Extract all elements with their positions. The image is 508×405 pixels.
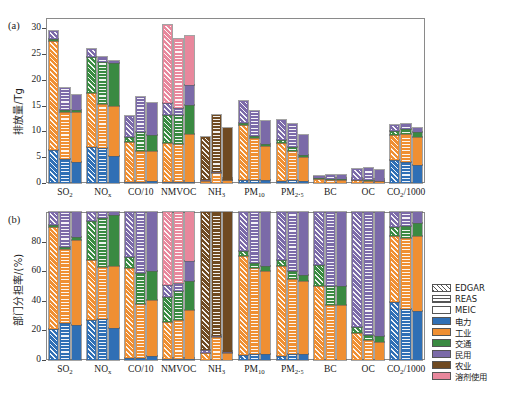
- panel-b-segment-民用: [87, 212, 96, 221]
- hatch-overlay: [251, 112, 258, 135]
- panel-b-segment-工业: [72, 240, 81, 325]
- hatch-overlay: [353, 328, 360, 331]
- legend-item-sector-0[interactable]: 电力: [432, 316, 487, 326]
- hatch-overlay: [289, 280, 296, 353]
- panel-b-segment-民用: [299, 212, 308, 275]
- panel-b-bar-reas: [60, 212, 69, 360]
- panel-a-segment-民用: [87, 49, 96, 57]
- panel-b-segment-工业: [60, 249, 69, 323]
- panel-b-y-tick-mark: [42, 301, 46, 302]
- panel-b-segment-民用: [147, 212, 156, 271]
- hatch-overlay: [50, 213, 57, 224]
- panel-a-segment-交通: [163, 115, 172, 142]
- panel-a-segment-交通: [239, 123, 248, 126]
- panel-b-group: [125, 212, 157, 360]
- panel-b-segment-农业: [212, 212, 221, 336]
- panel-b-segment-民用: [375, 212, 384, 336]
- legend-item-meic[interactable]: MEIC: [432, 305, 487, 315]
- hatch-overlay: [126, 138, 133, 141]
- panel-b-segment-交通: [98, 218, 107, 267]
- panel-b-segment-交通: [163, 297, 172, 323]
- legend-item-sector-5[interactable]: 溶剂使用: [432, 371, 487, 381]
- hatch-overlay: [391, 161, 398, 182]
- hatch-overlay: [391, 213, 398, 226]
- panel-b-segment-民用: [364, 212, 373, 335]
- panel-b-segment-农业: [201, 212, 210, 350]
- hatch-overlay: [50, 151, 57, 182]
- panel-a-segment-民用: [277, 120, 286, 141]
- panel-b-segment-工业: [413, 236, 422, 311]
- panel-b-segment-电力: [250, 354, 259, 360]
- legend-item-sector-4[interactable]: 农业: [432, 360, 487, 370]
- panel-b-bar-edgar: [163, 212, 172, 360]
- panel-b-segment-电力: [87, 320, 96, 360]
- legend-item-reas[interactable]: REAS: [432, 294, 487, 304]
- panel-b-segment-工业: [49, 227, 58, 330]
- panel-b-bar-meic: [413, 212, 422, 360]
- panel-a-segment-交通: [413, 132, 422, 137]
- panel-b-bar-edgar: [314, 212, 323, 360]
- hatch-overlay: [289, 181, 296, 182]
- panel-b-segment-交通: [185, 281, 194, 310]
- panel-b-segment-工业: [147, 300, 156, 356]
- legend-item-sector-1[interactable]: 工业: [432, 327, 487, 337]
- legend-item-sector-2[interactable]: 交通: [432, 338, 487, 348]
- hatch-overlay: [50, 32, 57, 38]
- hatch-overlay: [175, 40, 182, 108]
- legend-label: 溶剂使用: [455, 370, 487, 382]
- panel-b-y-tick-label: 40: [19, 296, 41, 306]
- hatch-overlay: [213, 174, 220, 182]
- hatch-overlay: [88, 50, 95, 56]
- panel-b-bar-edgar: [201, 212, 210, 360]
- legend-item-edgar[interactable]: EDGAR: [432, 283, 487, 293]
- panel-a-bar-reas: [401, 18, 410, 183]
- hatch-overlay: [315, 287, 322, 359]
- panel-b-segment-交通: [261, 266, 270, 271]
- hatch-overlay: [137, 98, 144, 132]
- hatch-overlay: [315, 180, 322, 182]
- hatch-overlay: [251, 181, 258, 182]
- panel-a-segment-工业: [60, 112, 69, 159]
- hatch-overlay: [88, 222, 95, 260]
- panel-a-bar-reas: [288, 18, 297, 183]
- panel-a-segment-民用: [261, 121, 270, 144]
- hatch-overlay: [402, 227, 409, 237]
- panel-a-bar-edgar: [239, 18, 248, 183]
- panel-b-segment-工业: [337, 305, 346, 361]
- panel-b-group: [239, 212, 271, 360]
- hatch-overlay: [278, 141, 285, 142]
- panel-a-group: [390, 18, 422, 183]
- panel-b-segment-电力: [261, 354, 270, 360]
- panel-a-bar-edgar: [201, 18, 210, 183]
- hatch-overlay: [88, 261, 95, 319]
- panel-a-bar-reas: [326, 18, 335, 183]
- panel-a-bar-reas: [364, 18, 373, 183]
- panel-b-bar-reas: [98, 212, 107, 360]
- hatch-overlay: [327, 181, 334, 182]
- panel-b-segment-交通: [288, 271, 297, 279]
- panel-a-segment-工业: [352, 180, 361, 183]
- panel-b-segment-电力: [239, 355, 248, 360]
- panel-b-segment-交通: [239, 251, 248, 256]
- panel-a-segment-民用: [314, 176, 323, 179]
- panel-a-segment-电力: [147, 181, 156, 183]
- hatch-overlay: [99, 58, 106, 61]
- hatch-overlay: [289, 272, 296, 278]
- panel-a-segment-工业: [212, 173, 221, 183]
- legend-item-sector-3[interactable]: 民用: [432, 349, 487, 359]
- panel-b-bar-edgar: [390, 212, 399, 360]
- panel-b-segment-民用: [201, 350, 210, 353]
- panel-a-group: [314, 18, 346, 183]
- panel-a-bar-edgar: [277, 18, 286, 183]
- panel-a-y-tick-label: 10: [19, 126, 41, 136]
- hatch-overlay: [240, 213, 247, 250]
- hatch-overlay: [99, 213, 106, 217]
- panel-b-segment-工业: [299, 281, 308, 353]
- hatch-overlay: [251, 264, 258, 267]
- panel-a-bar-edgar: [125, 18, 134, 183]
- hatch-overlay: [251, 355, 258, 359]
- panel-a-segment-工业: [49, 41, 58, 150]
- panel-b-bar-meic: [109, 212, 118, 360]
- hatch-overlay: [289, 213, 296, 270]
- panel-b-segment-交通: [72, 237, 81, 240]
